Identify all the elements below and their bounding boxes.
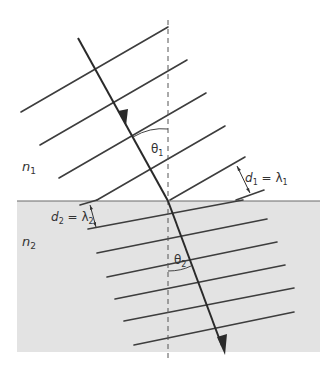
incident-arrow-icon xyxy=(118,109,128,126)
d1-arrow-bottom-icon xyxy=(246,188,250,193)
wavefront-upper-6 xyxy=(236,190,264,200)
d1-equals-lambda1-label: d1 = λ1 xyxy=(245,171,288,187)
upper-wavefronts xyxy=(21,27,264,205)
wavefront-upper-5 xyxy=(170,157,245,200)
medium1-label: n1 xyxy=(22,159,36,176)
refraction-diagram: n1 n2 θ1 θ2 d1 = λ1 d2 = λ2 xyxy=(0,0,336,365)
d1-arrow-top-icon xyxy=(237,166,241,171)
theta1-label: θ1 xyxy=(151,142,163,158)
d2-equals-lambda2-label: d2 = λ2 xyxy=(51,210,94,226)
